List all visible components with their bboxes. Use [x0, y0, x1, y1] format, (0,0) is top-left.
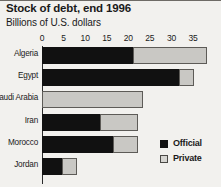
category-label: Iran	[0, 116, 38, 125]
x-tick-label: 0	[40, 33, 45, 43]
bar-row: Egypt	[0, 69, 221, 86]
stacked-bar[interactable]	[42, 47, 207, 64]
bar-segment-private	[179, 69, 194, 86]
x-tick-label: 35	[188, 33, 197, 43]
bar-segment-private	[100, 114, 138, 131]
stacked-bar[interactable]	[42, 91, 143, 108]
x-tick-label: 10	[81, 33, 90, 43]
x-tick-label: 30	[167, 33, 176, 43]
header-divider	[0, 0, 221, 1]
bar-segment-private	[113, 136, 138, 153]
bar-segment-official	[42, 114, 100, 131]
x-tick-label: 15	[102, 33, 111, 43]
bar-segment-official	[42, 136, 113, 153]
bar-segment-private	[62, 158, 77, 175]
category-label: Egypt	[0, 71, 38, 80]
category-label: Morocco	[0, 138, 38, 147]
legend-label-official: Official	[173, 138, 202, 148]
bar-segment-official	[42, 158, 62, 175]
chart-legend: Official Private	[160, 138, 218, 168]
x-tick-label: 5	[61, 33, 66, 43]
bar-segment-private	[42, 91, 143, 108]
legend-label-private: Private	[173, 153, 202, 163]
stacked-bar[interactable]	[42, 136, 138, 153]
legend-item-official[interactable]: Official	[160, 138, 218, 150]
chart-title: Stock of debt, end 1996	[6, 2, 131, 14]
category-label: Saudi Arabia	[0, 93, 38, 102]
bar-segment-private	[133, 47, 207, 64]
bar-segment-official	[42, 69, 179, 86]
x-tick-label: 25	[145, 33, 154, 43]
bar-row: Algeria	[0, 47, 221, 64]
stacked-bar[interactable]	[42, 114, 138, 131]
bar-row: Iran	[0, 114, 221, 131]
category-label: Algeria	[0, 49, 38, 58]
private-swatch-icon	[160, 155, 168, 163]
x-tick-label: 20	[124, 33, 133, 43]
official-swatch-icon	[160, 140, 168, 148]
chart-container: Stock of debt, end 1996 Billions of U.S.…	[0, 0, 221, 187]
stacked-bar[interactable]	[42, 158, 77, 175]
bar-row: Saudi Arabia	[0, 91, 221, 108]
bar-segment-official	[42, 47, 133, 64]
chart-subtitle: Billions of U.S. dollars	[6, 17, 101, 28]
category-label: Jordan	[0, 160, 38, 169]
stacked-bar[interactable]	[42, 69, 194, 86]
legend-item-private[interactable]: Private	[160, 153, 218, 165]
